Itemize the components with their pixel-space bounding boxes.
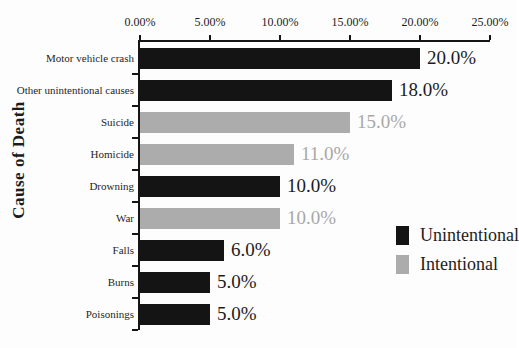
bar-value-label: 11.0% [301,141,349,167]
bar-value-label: 5.0% [217,269,257,295]
legend-entry-intentional: Intentional [396,255,519,274]
category-label: Other unintentional causes [0,83,134,97]
bar-value-label: 18.0% [399,77,448,103]
category-label: Poisonings [0,307,134,321]
plot-area: 0.00%5.00%10.00%15.00%20.00%25.00%20.0%1… [138,40,490,330]
x-axis-tick-mark [489,35,491,40]
y-axis-tick-mark [132,73,138,75]
legend-swatch-intentional [396,255,409,274]
bar-value-label: 20.0% [427,45,476,71]
bar-intentional [140,144,294,165]
x-axis-tick-label: 25.00% [472,15,509,30]
x-axis-tick-label: 5.00% [195,15,226,30]
x-axis-tick-label: 20.00% [402,15,439,30]
bar-unintentional [140,272,210,293]
category-label: Drowning [0,179,134,193]
y-axis-tick-mark [132,105,138,107]
y-axis-tick-mark [132,297,138,299]
x-axis-tick-mark [139,35,141,40]
x-axis-tick-mark [279,35,281,40]
legend-swatch-unintentional [396,226,409,245]
bar-value-label: 15.0% [357,109,406,135]
bar-intentional [140,112,350,133]
x-axis-tick-mark [419,35,421,40]
bar-value-label: 10.0% [287,173,336,199]
category-label: Homicide [0,147,134,161]
y-axis-tick-mark [132,233,138,235]
x-axis-tick-label: 15.00% [332,15,369,30]
y-axis-tick-mark [132,201,138,203]
legend: UnintentionalIntentional [396,226,519,284]
bar-value-label: 10.0% [287,205,336,231]
y-axis-tick-mark [132,169,138,171]
y-axis-tick-mark [132,265,138,267]
y-axis-tick-mark [132,329,138,331]
bar-unintentional [140,80,392,101]
x-axis-tick-mark [349,35,351,40]
bar-unintentional [140,304,210,325]
category-label: Suicide [0,115,134,129]
category-label: War [0,211,134,225]
legend-label: Unintentional [420,226,519,245]
bar-intentional [140,208,280,229]
y-axis-tick-mark [132,137,138,139]
bar-value-label: 6.0% [231,237,271,263]
x-axis-tick-mark [209,35,211,40]
category-label: Burns [0,275,134,289]
category-label: Falls [0,243,134,257]
bar-unintentional [140,240,224,261]
bar-unintentional [140,176,280,197]
x-axis-tick-label: 0.00% [125,15,156,30]
bar-value-label: 5.0% [217,301,257,327]
bar-unintentional [140,48,420,69]
legend-label: Intentional [420,255,498,274]
legend-entry-unintentional: Unintentional [396,226,519,245]
x-axis-tick-label: 10.00% [262,15,299,30]
category-label: Motor vehicle crash [0,51,134,65]
